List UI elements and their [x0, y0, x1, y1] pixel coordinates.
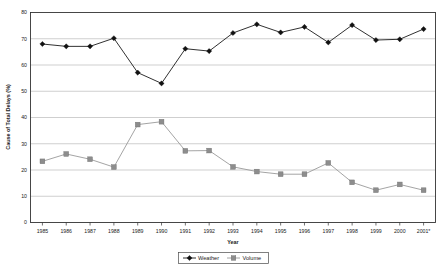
series-line-volume: [42, 122, 423, 191]
y-tick-label: 10: [21, 193, 27, 199]
legend-label-weather: Weather: [198, 255, 219, 261]
chart-svg-wrapper: 01020304050607080 1985198619871988198919…: [0, 0, 443, 269]
y-tick-label: 30: [21, 141, 27, 147]
data-point-weather-1990: [159, 81, 164, 86]
x-tick-label: 1986: [60, 228, 72, 234]
x-tick-label: 2000: [394, 228, 406, 234]
legend-entry-volume[interactable]: Volume: [227, 255, 261, 261]
x-tick-label: 1990: [156, 228, 168, 234]
x-axis-title: Year: [227, 239, 239, 245]
data-point-volume-1992: [207, 148, 212, 153]
data-point-weather-2001: [421, 26, 426, 31]
data-point-volume-1995: [278, 172, 283, 177]
data-point-volume-1989: [135, 122, 140, 127]
data-point-volume-2000: [397, 182, 402, 187]
data-point-weather-1995: [278, 30, 283, 35]
y-tick-label: 20: [21, 167, 27, 173]
x-axis-tick-labels: 1985198619871988198919901991199219931994…: [37, 228, 431, 234]
data-point-weather-1999: [373, 37, 378, 42]
x-tick-label: 1999: [370, 228, 382, 234]
series-markers-volume: [40, 119, 426, 192]
data-point-volume-1986: [64, 152, 69, 157]
y-tick-label: 60: [21, 62, 27, 68]
data-point-volume-1988: [111, 165, 116, 170]
x-tick-label: 1995: [275, 228, 287, 234]
data-point-weather-1985: [40, 41, 45, 46]
data-point-volume-1987: [88, 157, 93, 162]
data-point-weather-1988: [111, 36, 116, 41]
y-gridlines: [31, 39, 436, 197]
data-point-volume-1991: [183, 148, 188, 153]
series-markers-weather: [40, 22, 426, 86]
data-point-weather-1989: [135, 70, 140, 75]
x-tick-label: 1992: [203, 228, 215, 234]
y-tick-label: 80: [21, 9, 27, 15]
y-tick-label: 50: [21, 88, 27, 94]
delay-cause-line-chart: 01020304050607080 1985198619871988198919…: [0, 0, 443, 269]
data-point-volume-2001: [421, 188, 426, 193]
data-point-weather-1994: [254, 22, 259, 27]
data-point-volume-1998: [350, 180, 355, 185]
x-tick-label: 1988: [108, 228, 120, 234]
data-point-volume-1999: [374, 188, 379, 193]
y-tick-label: 40: [21, 114, 27, 120]
square-marker-icon: [231, 256, 236, 261]
x-tick-label: 1987: [84, 228, 96, 234]
legend-label-volume: Volume: [243, 255, 262, 261]
data-point-volume-1990: [159, 119, 164, 124]
data-point-volume-1996: [302, 172, 307, 177]
chart-container: 01020304050607080 1985198619871988198919…: [0, 0, 443, 269]
data-point-volume-1985: [40, 159, 45, 164]
x-tick-label: 1994: [251, 228, 263, 234]
y-axis-title: Cause of Total Delays (%): [5, 84, 11, 150]
data-point-weather-1996: [302, 24, 307, 29]
data-point-weather-1986: [64, 44, 69, 49]
data-point-weather-2000: [397, 37, 402, 42]
y-tick-label: 70: [21, 36, 27, 42]
data-point-weather-1987: [87, 44, 92, 49]
y-tick-label: 0: [24, 219, 27, 225]
data-point-volume-1993: [231, 164, 236, 169]
x-tick-label: 1997: [323, 228, 335, 234]
chart-legend: Weather Volume: [179, 253, 269, 264]
data-point-volume-1994: [254, 169, 259, 174]
x-tick-label: 1985: [37, 228, 49, 234]
x-tick-label: 1991: [180, 228, 192, 234]
x-tick-label: 1998: [346, 228, 358, 234]
x-tick-label: 2001*: [417, 228, 431, 234]
x-tick-label: 1996: [299, 228, 311, 234]
data-point-volume-1997: [326, 161, 331, 166]
y-axis-tick-labels: 01020304050607080: [21, 9, 27, 225]
x-tick-label: 1993: [227, 228, 239, 234]
data-point-weather-1991: [183, 46, 188, 51]
x-tick-label: 1989: [132, 228, 144, 234]
